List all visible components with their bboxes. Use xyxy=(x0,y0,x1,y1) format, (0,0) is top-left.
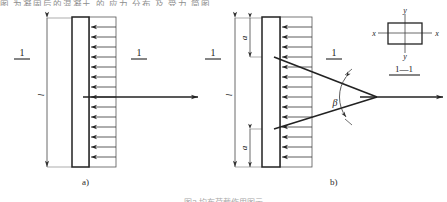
inset-axis-x-right-label: x xyxy=(434,29,439,38)
panel-a: 1 1 l xyxy=(14,17,198,167)
panel-b-dimension-a-top: a xyxy=(239,18,262,57)
panel-a-dimension-l: l xyxy=(36,18,72,167)
inset-section-label: 1—1 xyxy=(395,64,413,74)
subcaption-b: b) xyxy=(330,177,338,187)
panel-b-dimension-a-bottom: a xyxy=(239,129,262,167)
panel-b-plate xyxy=(262,17,280,167)
section-inset: x x y y 1—1 xyxy=(371,6,439,75)
panel-a-length-label: l xyxy=(36,93,46,96)
top-cropped-text: 图 为凝固后的混凝土 的 应力 分布 及 受力 简图 xyxy=(0,0,447,6)
section-marker-b-mid-text: 1 xyxy=(332,47,337,58)
inset-axis-x-left-label: x xyxy=(371,29,376,38)
engineering-diagram-svg: 1 1 l xyxy=(0,0,447,202)
panel-b-load-arrows xyxy=(282,27,312,157)
panel-b-length-label: l xyxy=(224,93,234,96)
section-marker-a-left-text: 1 xyxy=(20,47,25,58)
panel-a-section-marker-left: 1 xyxy=(14,47,30,59)
inset-axis-y-bottom-label: y xyxy=(402,52,407,61)
panel-b-edge-label-top: a xyxy=(239,35,249,40)
panel-a-load-block xyxy=(89,17,116,167)
panel-a-plate xyxy=(72,17,89,167)
panel-b-cables xyxy=(274,57,377,129)
panel-a-section-marker-right: 1 xyxy=(131,47,147,59)
section-marker-a-right-text: 1 xyxy=(137,47,142,58)
figure-root: 图 为凝固后的混凝土 的 应力 分布 及 受力 简图 1 xyxy=(0,0,447,202)
panel-b-angle-label: β xyxy=(332,97,338,108)
panel-b: 1 1 l a xyxy=(205,17,443,167)
panel-b-section-marker-mid: 1 xyxy=(326,47,342,59)
panel-b-edge-label-bottom: a xyxy=(239,145,249,150)
panel-b-load-block xyxy=(280,17,312,167)
panel-b-section-marker-left: 1 xyxy=(205,47,221,59)
bottom-cropped-text: 图3 均布荷载作用图示 xyxy=(0,196,447,202)
section-marker-b-left-text: 1 xyxy=(211,47,216,58)
subcaption-a: a) xyxy=(82,177,89,187)
panel-a-load-arrows xyxy=(91,27,116,157)
panel-b-angle-beta: β xyxy=(332,69,352,125)
inset-axis-y-top-label: y xyxy=(402,6,407,15)
